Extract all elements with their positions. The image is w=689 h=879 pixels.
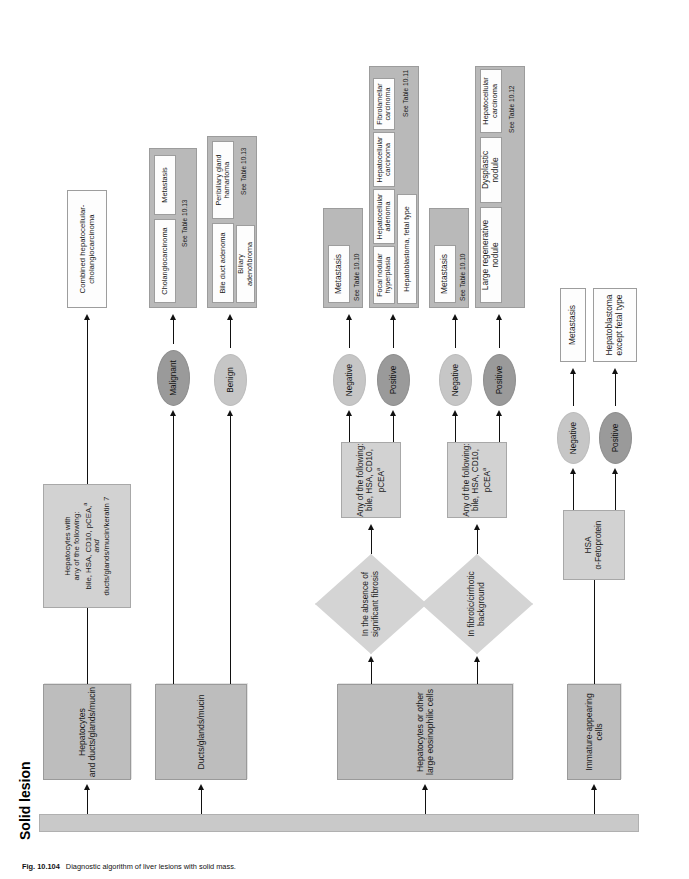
footnote-marker-a: a <box>374 467 380 470</box>
outcome-large-regenerative-nodule[interactable]: Large regenerative nodule <box>480 207 502 303</box>
arrowhead-ducts-malignant <box>169 410 175 416</box>
oval-fibrotic-positive[interactable]: Positive <box>483 354 516 406</box>
outcome-focal-nodular-hyperplasia[interactable]: Focal nodular hyperplasia <box>373 246 395 304</box>
arrowhead-immature-negative <box>569 468 575 474</box>
arrowhead-fibrotic-pos-group <box>495 314 501 320</box>
connector-nofibrosis-to-test <box>371 528 372 554</box>
test-hsa-line2: α-Fetoprotein <box>594 520 604 569</box>
category-ducts-glands-mucin[interactable]: Ducts/glands/mucin <box>155 684 247 780</box>
outcome-group-nofibrosis-positive: Focal nodular hyperplasia Hepatocellular… <box>369 66 419 308</box>
connector-immature-positive <box>615 472 616 510</box>
connector-nofibrosis-negative <box>349 414 350 442</box>
arrowhead-nofibrosis-positive <box>389 410 395 416</box>
test-markers-nofibrosis-line1: Any of the following: <box>355 443 365 516</box>
outcome-group-fibrotic-negative: Metastasis See Table 10.10 <box>429 208 469 308</box>
category-hepatocytes-eosinophilic[interactable]: Hepatocytes or other large eosinophilic … <box>337 684 513 780</box>
connector-malignant-group <box>173 318 174 344</box>
outcome-group-nofibrosis-negative: Metastasis See Table 10.10 <box>323 208 363 308</box>
outcome-group-fibrotic-positive: Large regenerative nodule Dysplastic nod… <box>475 66 525 308</box>
test-hepducts-line3: bile, HSA, CD10, pCEA,a <box>81 502 92 589</box>
connector-immature-to-test <box>594 580 595 684</box>
decision-fibrotic-cirrhotic-background[interactable]: In fibrotic/cirrhotic background <box>421 554 533 654</box>
arrowhead-nofibrosis-neg-group <box>345 314 351 320</box>
connector-fibrotic-to-test <box>477 528 478 554</box>
flowchart-canvas: Solid lesion Immature-appearing cells He… <box>15 10 675 870</box>
connector-ducts-malignant <box>173 414 174 684</box>
outcome-group-ducts-malignant: Cholangiocarcinoma Metastasis See Table … <box>149 148 197 308</box>
test-markers-fibrotic-line1: Any of the following: <box>461 443 471 516</box>
outcome-hepatocellular-carcinoma-nofibrosis[interactable]: Hepatocellular carcinoma <box>373 132 395 187</box>
connector-ducts-benign <box>230 414 231 684</box>
test-markers-nofibrosis-line2: bile, HSA, CD10, pCEAa <box>365 443 386 517</box>
outcome-hepatoblastoma-except-fetal[interactable]: Hepatoblastoma except fetal type <box>593 288 637 362</box>
oval-ducts-benign[interactable]: Benign <box>214 354 247 406</box>
connector-root-ducts <box>201 788 202 814</box>
oval-ducts-malignant[interactable]: Malignant <box>157 350 190 406</box>
outcome-hepatoblastoma-fetal-type[interactable]: Hepatoblastoma, fetal type <box>397 194 417 304</box>
connector-hepducts-to-test <box>87 608 88 684</box>
test-hsa-afetoprotein[interactable]: HSA α-Fetoprotein <box>563 510 625 580</box>
category-hepatocytes-and-ducts[interactable]: Hepatocytes and ducts/glands/mucin <box>43 684 131 780</box>
connector-immature-negative <box>573 472 574 510</box>
oval-immature-positive[interactable]: Positive <box>599 412 632 464</box>
test-hsa-line1: HSA <box>584 536 594 553</box>
see-table-10-10-nofibrosis[interactable]: See Table 10.10 <box>353 253 360 301</box>
see-table-10-12[interactable]: See Table 10.12 <box>508 85 515 133</box>
outcome-peribiliary-gland-hamartoma[interactable]: Peribiliary gland hamartoma <box>212 141 234 219</box>
arrowhead-ducts-benign <box>226 410 232 416</box>
connector-root-immature <box>594 788 595 814</box>
connector-hepeos-nofibrosis <box>371 660 372 684</box>
see-table-10-13-benign[interactable]: See Table 10.13 <box>240 147 247 195</box>
arrowhead-benign-group <box>226 314 232 320</box>
test-markers-fibrotic-line2: bile, HSA, CD10, pCEAa <box>471 443 492 517</box>
category-immature-appearing-cells[interactable]: Immature-appearing cells <box>567 684 621 780</box>
figure-number: Fig. 10.104 <box>22 862 60 871</box>
outcome-biliary-adenofibroma[interactable]: Biliary adenofibroma <box>236 225 255 303</box>
arrowhead-nofibrosis-negative <box>345 410 351 416</box>
test-hepducts-line1: Hepatocytes with <box>63 516 72 575</box>
arrowhead-root-hepeos <box>421 784 427 790</box>
oval-nofibrosis-positive[interactable]: Positive <box>377 354 410 406</box>
arrowhead-immature-pos-result <box>611 368 617 374</box>
figure-caption: Fig. 10.104 Diagnostic algorithm of live… <box>22 862 236 871</box>
outcome-metastasis-malignant[interactable]: Metastasis <box>154 155 176 215</box>
test-hepducts-line2: any of the following: <box>72 511 81 580</box>
connector-fibrotic-negative <box>455 414 456 442</box>
oval-nofibrosis-negative[interactable]: Negative <box>333 354 366 406</box>
outcome-group-ducts-benign: Bile duct adenoma Peribiliary gland hama… <box>207 136 257 308</box>
outcome-metastasis-nofibrosis[interactable]: Metastasis <box>328 245 350 303</box>
figure-caption-text: Diagnostic algorithm of liver lesions wi… <box>66 862 236 871</box>
oval-fibrotic-negative[interactable]: Negative <box>439 354 472 406</box>
arrowhead-root-immature <box>590 784 596 790</box>
oval-immature-negative[interactable]: Negative <box>557 412 590 464</box>
connector-immature-neg-result <box>573 372 574 406</box>
test-hepatocytes-with-markers[interactable]: Hepatocytes with any of the following: b… <box>43 484 131 608</box>
outcome-metastasis-immature[interactable]: Metastasis <box>560 288 586 362</box>
arrowhead-root-ducts <box>197 784 203 790</box>
figure-rotation-wrapper: Solid lesion Immature-appearing cells He… <box>0 0 689 879</box>
outcome-fibrolamellar-carcinoma[interactable]: Fibrolamellar carcinoma <box>373 78 395 130</box>
arrowhead-nofibrosis-to-test <box>367 524 373 530</box>
test-markers-fibrotic[interactable]: Any of the following: bile, HSA, CD10, p… <box>447 442 507 518</box>
decision-absence-significant-fibrosis[interactable]: In the absence of significant fibrosis <box>315 554 427 654</box>
test-hepducts-line4: and <box>92 539 101 552</box>
arrowhead-malignant-group <box>169 314 175 320</box>
connector-root-hepeos <box>425 788 426 814</box>
see-table-10-13-malignant[interactable]: See Table 10.13 <box>181 199 188 247</box>
test-hepducts-line5: ducts/glands/mucin/keratin 7 <box>101 496 110 595</box>
outcome-hepatocellular-adenoma[interactable]: Hepatocellular adenoma <box>373 189 395 244</box>
outcome-metastasis-fibrotic[interactable]: Metastasis <box>434 245 456 303</box>
outcome-cholangiocarcinoma[interactable]: Cholangiocarcinoma <box>154 219 176 303</box>
connector-nofibrosis-positive <box>393 414 394 442</box>
arrowhead-hepeos-fibrotic <box>473 656 479 662</box>
arrowhead-immature-neg-result <box>569 368 575 374</box>
see-table-10-10-fibrotic[interactable]: See Table 10.10 <box>459 253 466 301</box>
outcome-combined-hepatocellular-cholangiocarcinoma[interactable]: Combined hepatocellular- cholangiocarcin… <box>67 190 107 308</box>
see-table-10-11[interactable]: See Table 10.11 <box>402 69 409 116</box>
test-markers-nofibrosis[interactable]: Any of the following: bile, HSA, CD10, p… <box>341 442 401 518</box>
arrowhead-immature-positive <box>611 468 617 474</box>
connector-fibrotic-pos-group <box>499 318 500 348</box>
outcome-bile-duct-adenoma[interactable]: Bile duct adenoma <box>212 223 234 303</box>
outcome-hepatocellular-carcinoma-fibrotic[interactable]: Hepatocellular carcinoma <box>480 69 502 133</box>
outcome-dysplastic-nodule[interactable]: Dysplastic nodule <box>480 137 502 203</box>
